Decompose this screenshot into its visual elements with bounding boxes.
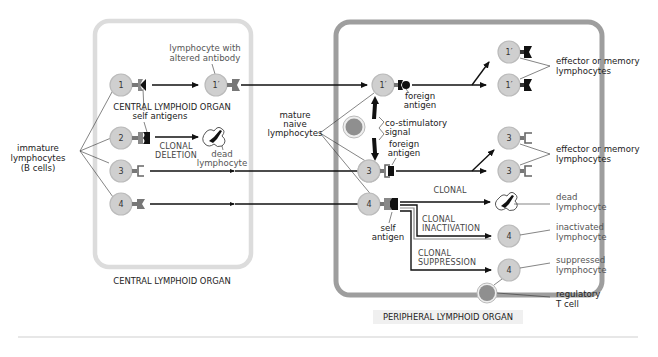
label-effector-1a: effector or memory	[556, 56, 640, 66]
label-periph-clonal-deletion-1: CLONAL	[433, 186, 467, 195]
label-foreign-antigen-1b: antigen	[404, 100, 437, 110]
label-clonal-inactivation-2: INACTIVATION	[422, 224, 480, 233]
svg-text:4: 4	[366, 200, 371, 209]
receptor-3	[132, 166, 144, 176]
suppressed-lymphocyte-cell: 4	[498, 259, 520, 281]
label-effector-3b: lymphocytes	[556, 154, 611, 164]
peripheral-lymphoid-organ-title: PERIPHERAL LYMPHOID ORGAN	[383, 312, 513, 322]
cell-2: 2	[110, 127, 132, 149]
label-foreign-antigen-3b: antigen	[388, 148, 421, 158]
co-stimulatory-cell	[343, 116, 365, 138]
label-lymphocytes: lymphocytes	[11, 153, 66, 163]
receptor-2-with-self-antigen	[132, 132, 150, 144]
label-b-cells: (B cells)	[21, 163, 56, 173]
label-dead-peripheral-2: lymphocyte	[556, 202, 606, 212]
label-effector-3a: effector or memory	[556, 144, 640, 154]
svg-text:4: 4	[506, 266, 511, 275]
label-costim-2: signal	[385, 127, 410, 137]
label-clonal-suppression-1: CLONAL	[418, 249, 452, 258]
cell-4: 4	[110, 193, 132, 215]
cell-3: 3	[110, 160, 132, 182]
label-suppressed-2: lymphocyte	[556, 265, 606, 275]
svg-text:1′: 1′	[506, 81, 513, 90]
effector-1-prime-b: 1′	[498, 74, 532, 96]
label-regulatory-2: T cell	[555, 299, 579, 309]
label-altered-1: lymphocyte with	[169, 43, 240, 53]
label-mature-lymphocytes: lymphocytes	[268, 128, 323, 138]
svg-text:4: 4	[118, 200, 123, 209]
cell-3-peripheral-visible: 3	[358, 160, 394, 182]
svg-text:1′: 1′	[380, 81, 387, 90]
label-altered-2: altered antibody	[170, 53, 241, 63]
label-clonal-suppression-2: SUPPRESSION	[418, 258, 476, 267]
co-stim-arrow-up	[371, 96, 379, 119]
svg-text:2: 2	[118, 134, 123, 143]
svg-text:3: 3	[506, 167, 511, 176]
label-inactivated-1: inactivated	[556, 222, 604, 232]
lymphocyte-tolerance-diagram: CENTRAL LYMPHOID ORGAN immature lymphocy…	[0, 0, 658, 357]
label-self-antigens: self antigens	[132, 111, 188, 121]
label-clonal-inactivation-1: CLONAL	[422, 215, 456, 224]
svg-text:3: 3	[366, 167, 371, 176]
effector-3-b: 3	[498, 160, 532, 182]
regulatory-t-cell	[477, 283, 497, 303]
svg-text:4: 4	[506, 232, 511, 241]
cell-4-peripheral: 4	[358, 193, 398, 215]
label-inactivated-2: lymphocyte	[556, 232, 606, 242]
svg-text:1: 1	[118, 81, 123, 90]
label-dead-central-2: lymphocyte	[197, 158, 247, 168]
label-regulatory-1: regulatory	[556, 289, 600, 299]
label-effector-1b: lymphocytes	[556, 66, 611, 76]
label-central-clonal: CLONAL	[159, 142, 193, 151]
svg-text:3: 3	[118, 167, 123, 176]
label-dead-peripheral-1: dead	[556, 192, 577, 202]
svg-text:1′: 1′	[213, 81, 220, 90]
dead-lymphocyte-central	[203, 127, 225, 146]
label-immature: immature	[17, 143, 59, 153]
cell-1-prime-central: 1′	[205, 74, 240, 96]
co-stim-arrow-down	[371, 138, 379, 161]
inactivated-lymphocyte-cell: 4	[498, 225, 520, 247]
receptor-1-with-self-antigen	[132, 79, 146, 91]
dead-lymphocyte-peripheral	[495, 192, 517, 210]
label-self-antigen-2: antigen	[372, 232, 405, 242]
effector-3-a: 3	[498, 127, 532, 149]
central-lymphoid-organ-title: CENTRAL LYMPHOID ORGAN	[113, 276, 230, 286]
cell-1: 1	[110, 74, 132, 96]
label-suppressed-1: suppressed	[556, 255, 605, 265]
svg-text:1′: 1′	[506, 48, 513, 57]
label-central-deletion: DELETION	[155, 151, 197, 160]
svg-text:3: 3	[506, 134, 511, 143]
receptor-4	[132, 199, 145, 209]
